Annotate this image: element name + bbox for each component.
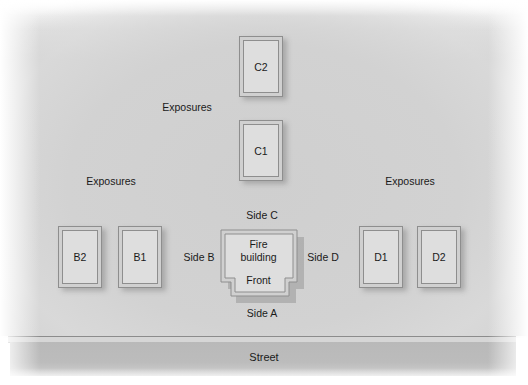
exposure-b2-label: B2 bbox=[74, 251, 87, 263]
exposure-b2: B2 bbox=[58, 226, 102, 288]
vignette-top bbox=[0, 0, 528, 16]
vignette-left bbox=[0, 0, 40, 338]
side-c-label: Side C bbox=[246, 209, 278, 221]
front-label: Front bbox=[221, 274, 296, 287]
exposure-c1: C1 bbox=[239, 120, 283, 181]
exposure-d2: D2 bbox=[417, 226, 461, 288]
exposures-label-top: Exposures bbox=[162, 101, 212, 113]
side-d-label: Side D bbox=[307, 251, 339, 263]
fire-building: Fire building Front bbox=[221, 230, 301, 300]
exposures-label-right: Exposures bbox=[385, 175, 435, 187]
exposure-d2-label: D2 bbox=[432, 251, 445, 263]
exposure-c2: C2 bbox=[239, 36, 283, 97]
exposure-d1-label: D1 bbox=[374, 251, 387, 263]
fireground-diagram: C2 Exposures C1 Exposures Exposures B2 B… bbox=[0, 0, 528, 385]
street-vignette-bottom bbox=[0, 368, 528, 385]
exposure-c1-label: C1 bbox=[254, 145, 267, 157]
exposure-c2-label: C2 bbox=[254, 61, 267, 73]
side-b-label: Side B bbox=[184, 251, 215, 263]
vignette-right bbox=[488, 0, 528, 338]
exposure-d1: D1 bbox=[359, 226, 403, 288]
street-label: Street bbox=[249, 351, 278, 363]
exposure-b1: B1 bbox=[118, 226, 162, 288]
exposures-label-left: Exposures bbox=[86, 175, 136, 187]
fire-building-label-line1: Fire bbox=[221, 238, 296, 251]
side-a-label: Side A bbox=[247, 307, 277, 319]
exposure-b1-label: B1 bbox=[134, 251, 147, 263]
fire-building-label-line2: building bbox=[221, 251, 296, 264]
